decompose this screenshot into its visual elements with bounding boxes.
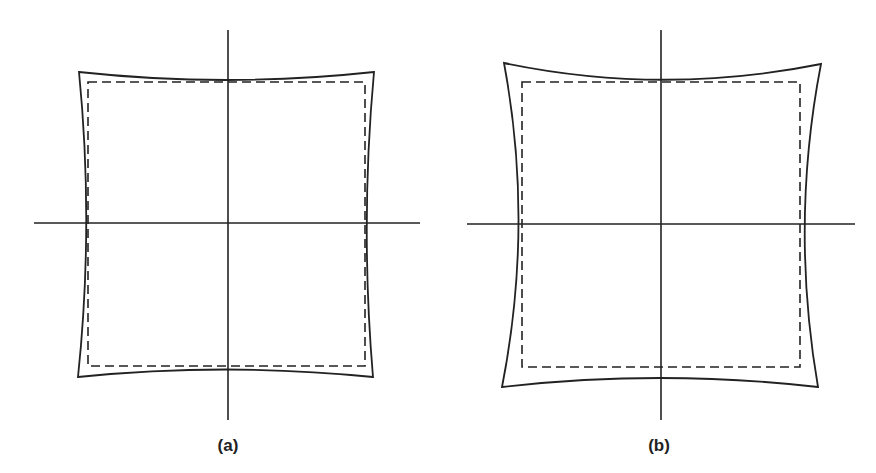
- panel-a-distorted-outline: [78, 72, 374, 377]
- panel-b: [467, 30, 855, 420]
- panel-a-caption: (a): [198, 436, 258, 456]
- panel-a: [34, 30, 420, 420]
- panel-a-ideal-square-dashed: [88, 82, 365, 366]
- panel-b-caption: (b): [629, 436, 689, 456]
- distortion-figure: [0, 0, 876, 473]
